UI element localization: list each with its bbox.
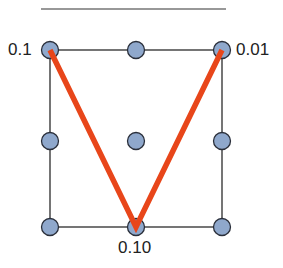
node-top-middle [128,42,145,59]
label-bottom-middle: 0.10 [118,238,151,258]
grid-nodes [42,42,231,236]
node-middle-left [42,133,59,150]
node-bottom-right [214,219,231,236]
node-bottom-left [42,219,59,236]
label-top-right: 0.01 [236,40,269,60]
node-middle-right [214,133,231,150]
node-center [128,133,145,150]
label-top-left: 0.1 [8,40,32,60]
